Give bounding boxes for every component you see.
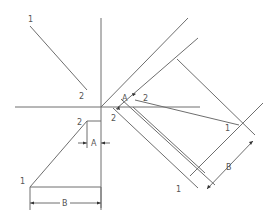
aux-projector-4 bbox=[177, 59, 255, 135]
label-front-dim-b: B bbox=[62, 199, 68, 208]
aux-projector-2 bbox=[121, 99, 215, 185]
top-view-line-1-2 bbox=[30, 26, 87, 90]
aux-projector-3 bbox=[133, 107, 205, 173]
dim-b-arrowhead-left bbox=[30, 202, 34, 205]
dim-a-arrowhead-right bbox=[101, 142, 105, 145]
dim-b-arrowhead-right bbox=[97, 202, 101, 205]
label-aux-ref-1: 1 bbox=[176, 185, 181, 194]
label-top-1: 1 bbox=[28, 15, 33, 24]
label-front-2: 2 bbox=[77, 118, 82, 127]
label-aux-dim-b: B bbox=[226, 163, 232, 172]
label-aux-2-lower: 2 bbox=[111, 114, 116, 123]
label-top-2: 2 bbox=[79, 92, 84, 101]
label-aux-2-upper: 2 bbox=[143, 94, 148, 103]
front-view-true-length-line bbox=[30, 121, 87, 187]
dim-a-arrowhead-left bbox=[83, 142, 87, 145]
orthographic-projection-diagram: 1 2 2 1 A B bbox=[0, 0, 275, 223]
label-aux-1: 1 bbox=[225, 124, 230, 133]
label-front-1: 1 bbox=[20, 177, 25, 186]
aux-fold-line-inner bbox=[116, 38, 198, 109]
aux-projector-1 bbox=[113, 108, 198, 188]
diagram-svg: 1 2 2 1 A B bbox=[0, 0, 275, 223]
label-aux-dim-a: A bbox=[122, 94, 128, 103]
label-front-dim-a: A bbox=[91, 139, 97, 148]
